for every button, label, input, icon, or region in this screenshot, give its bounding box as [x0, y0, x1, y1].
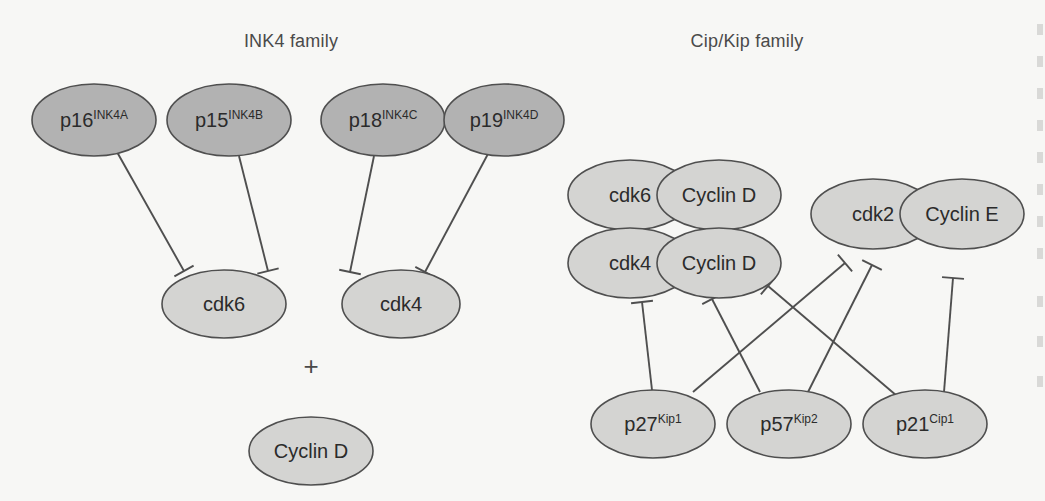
- node-label-superscript: INK4B: [228, 108, 263, 122]
- plus-operator: +: [303, 353, 318, 379]
- node-label-text: p27: [624, 413, 657, 435]
- edge-text-fragment: [1037, 120, 1043, 131]
- page-edge-text-fragments: [1029, 0, 1045, 501]
- node-label-text: Cyclin D: [274, 440, 348, 462]
- node-label-cdk6-complex-cdk: cdk6: [609, 185, 651, 205]
- node-label-cdk6-left: cdk6: [203, 294, 245, 314]
- node-label-text: p57: [760, 413, 793, 435]
- edge-text-fragment: [1037, 248, 1043, 259]
- node-label-text: p21: [896, 413, 929, 435]
- node-label-text: p19: [470, 109, 503, 131]
- node-label-cdk2-complex-cyclin: Cyclin E: [925, 204, 998, 224]
- node-label-text: cdk2: [852, 203, 894, 225]
- node-label-cdk4-complex-cdk: cdk4: [609, 253, 651, 273]
- node-label-superscript: INK4D: [503, 108, 538, 122]
- node-label-superscript: Kip2: [794, 412, 818, 426]
- node-label-p57: p57Kip2: [760, 414, 817, 434]
- node-label-text: cdk6: [609, 184, 651, 206]
- node-label-cdk2-complex-cdk: cdk2: [852, 204, 894, 224]
- node-label-p16: p16INK4A: [60, 110, 128, 130]
- node-labels-layer: p16INK4Ap15INK4Bp18INK4Cp19INK4Dcdk6cdk4…: [0, 0, 1045, 501]
- node-label-cdk4-complex-cyclin: Cyclin D: [682, 253, 756, 273]
- node-label-text: cdk4: [380, 293, 422, 315]
- node-label-text: p16: [60, 109, 93, 131]
- node-label-text: Cyclin D: [682, 252, 756, 274]
- edge-text-fragment: [1037, 296, 1043, 307]
- node-label-text: Cyclin E: [925, 203, 998, 225]
- edge-text-fragment: [1037, 56, 1043, 67]
- node-label-text: cdk4: [609, 252, 651, 274]
- node-label-text: cdk6: [203, 293, 245, 315]
- node-label-superscript: Kip1: [658, 412, 682, 426]
- node-label-text: p15: [195, 109, 228, 131]
- edge-text-fragment: [1037, 88, 1043, 99]
- node-label-cyclind-left: Cyclin D: [274, 441, 348, 461]
- node-label-cdk6-complex-cyclin: Cyclin D: [682, 185, 756, 205]
- node-label-superscript: Cip1: [929, 412, 954, 426]
- edge-text-fragment: [1037, 152, 1043, 163]
- cipkip-family-title: Cip/Kip family: [691, 31, 804, 52]
- edge-text-fragment: [1037, 336, 1043, 347]
- node-label-superscript: INK4A: [93, 108, 128, 122]
- node-label-text: p18: [349, 109, 382, 131]
- edge-text-fragment: [1037, 376, 1043, 387]
- node-label-superscript: INK4C: [382, 108, 417, 122]
- node-label-p27: p27Kip1: [624, 414, 681, 434]
- node-label-p15: p15INK4B: [195, 110, 263, 130]
- node-label-p18: p18INK4C: [349, 110, 418, 130]
- node-label-text: Cyclin D: [682, 184, 756, 206]
- node-label-p19: p19INK4D: [470, 110, 539, 130]
- node-label-cdk4-left: cdk4: [380, 294, 422, 314]
- ink4-family-title: INK4 family: [244, 31, 338, 52]
- edge-text-fragment: [1037, 216, 1043, 227]
- node-label-p21: p21Cip1: [896, 414, 954, 434]
- cell-cycle-inhibitor-diagram: p16INK4Ap15INK4Bp18INK4Cp19INK4Dcdk6cdk4…: [0, 0, 1045, 501]
- edge-text-fragment: [1037, 24, 1043, 35]
- edge-text-fragment: [1037, 184, 1043, 195]
